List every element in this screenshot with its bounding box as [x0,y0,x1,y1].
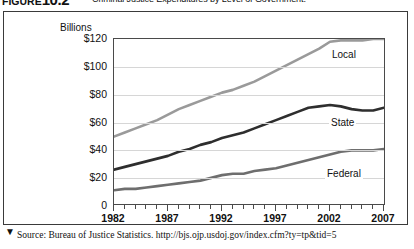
gridline [114,95,384,96]
figure-header: FIGURE10.2 Criminal Justice Expenditures… [0,0,414,11]
figure-number: FIGURE10.2 [2,0,69,8]
x-tick-mark [329,205,330,211]
x-tick-mark [383,205,384,211]
y-tick-label: $120 [84,32,107,44]
x-tick-mark [135,205,136,209]
x-tick-mark [243,205,244,209]
x-tick-label: 1982 [101,212,124,224]
x-tick-mark [307,205,308,209]
gridline [114,150,384,151]
x-tick-mark [264,205,265,209]
figure-title: Criminal Justice Expenditures by Level o… [92,0,306,4]
x-axis-ticks [113,205,385,211]
x-tick-mark [189,205,190,209]
y-axis-labels: $120 $100 $80 $60 $40 $20 0 [55,38,107,205]
source-url: http://bjs.ojp.usdoj.gov/index.cfm?ty=tp… [156,230,337,240]
x-tick-mark [372,205,373,209]
gridline [114,67,384,68]
series-label-state: State [329,117,356,128]
y-tick-label: $40 [89,143,107,155]
x-tick-mark [351,205,352,209]
y-tick-label: $80 [89,88,107,100]
x-tick-label: 2007 [371,212,394,224]
x-axis-labels: 1982 1987 1992 1997 2002 2007 [113,212,385,226]
x-tick-label: 1992 [209,212,232,224]
series-label-local: Local [330,49,358,60]
y-tick-label: $100 [84,60,107,72]
x-tick-mark [340,205,341,209]
x-tick-label: 1997 [263,212,286,224]
x-tick-mark [318,205,319,209]
x-tick-mark [221,205,222,211]
source-row: ▼ Source: Bureau of Justice Statistics. … [3,230,411,246]
series-label-federal: Federal [325,168,363,179]
x-tick-mark [178,205,179,209]
state-series-line [114,105,384,170]
x-tick-mark [286,205,287,209]
x-tick-mark [167,205,168,211]
source-label: Source: Bureau of Justice Statistics. [17,230,153,240]
y-tick-label: $20 [89,171,107,183]
x-tick-mark [210,205,211,209]
x-tick-mark [113,205,114,211]
x-tick-mark [199,205,200,209]
x-tick-label: 2002 [317,212,340,224]
x-tick-mark [253,205,254,209]
x-tick-mark [145,205,146,209]
x-tick-mark [232,205,233,209]
source-arrow-icon: ▼ [5,226,15,237]
x-tick-mark [275,205,276,211]
figure-number-value: 10.2 [42,0,70,8]
x-tick-mark [361,205,362,209]
x-tick-label: 1987 [155,212,178,224]
source-text: Source: Bureau of Justice Statistics. ht… [17,230,336,240]
x-tick-mark [156,205,157,209]
x-tick-mark [297,205,298,209]
figure-number-word: FIGURE [2,0,42,7]
y-tick-label: 0 [101,199,107,211]
y-tick-label: $60 [89,116,107,128]
x-tick-mark [124,205,125,209]
